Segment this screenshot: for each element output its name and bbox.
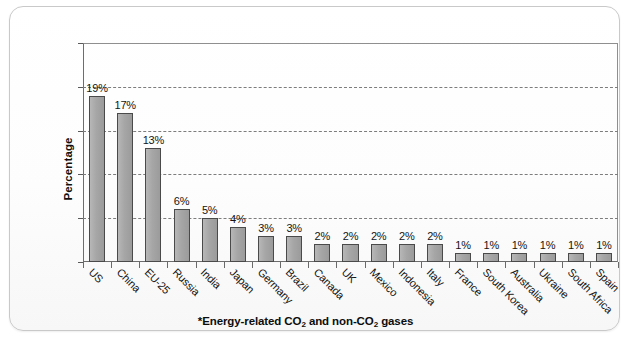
bar-value-label: 2% xyxy=(371,230,387,242)
bar-value-label: 5% xyxy=(202,204,218,216)
bar-value-label: 13% xyxy=(143,134,164,146)
x-axis-ticks xyxy=(83,262,618,268)
x-tick-mark xyxy=(365,262,366,268)
x-tick-mark xyxy=(139,262,140,268)
bar-slot: 5% xyxy=(196,43,224,262)
bar[interactable] xyxy=(202,218,218,262)
bar[interactable] xyxy=(540,253,556,262)
bar-value-label: 3% xyxy=(258,222,274,234)
bar[interactable] xyxy=(511,253,527,262)
x-tick-label: EU-25 xyxy=(143,266,173,296)
x-tick-mark xyxy=(111,262,112,268)
x-tick-label: Russia xyxy=(171,266,203,298)
bar-slot: 1% xyxy=(449,43,477,262)
bar[interactable] xyxy=(286,236,302,262)
bar[interactable] xyxy=(568,253,584,262)
footnote-suffix: gases xyxy=(378,315,413,327)
x-tick-mark xyxy=(421,262,422,268)
x-tick-label: UK xyxy=(340,266,359,285)
bar-slot: 2% xyxy=(336,43,364,262)
x-tick-mark xyxy=(562,262,563,268)
bar[interactable] xyxy=(117,113,133,262)
bar-value-label: 2% xyxy=(315,230,331,242)
x-tick-label: Italy xyxy=(424,266,446,288)
bar[interactable] xyxy=(258,236,274,262)
footnote-sub-2: 2 xyxy=(374,320,378,329)
x-tick-label: Japan xyxy=(227,266,256,295)
bar[interactable] xyxy=(596,253,612,262)
x-tick-mark xyxy=(336,262,337,268)
x-tick-mark xyxy=(477,262,478,268)
x-tick-mark xyxy=(196,262,197,268)
bar-value-label: 4% xyxy=(230,213,246,225)
y-axis-title: Percentage xyxy=(62,137,74,200)
x-tick-mark xyxy=(167,262,168,268)
chart-frame: Percentage 0%5%10%15%20%25% 19%17%13%6%5… xyxy=(9,6,620,331)
x-tick-label: India xyxy=(199,266,224,291)
bar-value-label: 1% xyxy=(568,239,584,251)
bar[interactable] xyxy=(483,253,499,262)
footnote-prefix: *Energy-related CO xyxy=(198,315,302,327)
bar-slot: 3% xyxy=(252,43,280,262)
bar-value-label: 1% xyxy=(484,239,500,251)
bar-value-label: 1% xyxy=(596,239,612,251)
bar-slot: 3% xyxy=(280,43,308,262)
x-tick-label: US xyxy=(86,266,105,285)
x-tick-mark xyxy=(280,262,281,268)
bar-value-label: 2% xyxy=(343,230,359,242)
bar[interactable] xyxy=(427,244,443,262)
bar[interactable] xyxy=(174,209,190,262)
bar[interactable] xyxy=(399,244,415,262)
bar-value-label: 1% xyxy=(540,239,556,251)
x-tick-label: Mexico xyxy=(368,266,401,299)
bar[interactable] xyxy=(314,244,330,262)
bar-value-label: 6% xyxy=(174,195,190,207)
bar-slot: 1% xyxy=(562,43,590,262)
x-tick-mark xyxy=(534,262,535,268)
x-tick-mark xyxy=(590,262,591,268)
x-tick-mark xyxy=(252,262,253,268)
bar-slot: 1% xyxy=(505,43,533,262)
x-tick-mark xyxy=(308,262,309,268)
bar-slot: 1% xyxy=(477,43,505,262)
bar-slot: 19% xyxy=(83,43,111,262)
bar-value-label: 17% xyxy=(115,99,136,111)
bar[interactable] xyxy=(455,253,471,262)
footnote-middle: and non-CO xyxy=(306,315,374,327)
x-tick-mark xyxy=(449,262,450,268)
x-tick-mark xyxy=(83,262,84,268)
bar-slot: 2% xyxy=(393,43,421,262)
x-tick-label: China xyxy=(114,266,142,294)
bar-slot: 2% xyxy=(308,43,336,262)
bar[interactable] xyxy=(230,227,246,262)
bar[interactable] xyxy=(342,244,358,262)
bar-value-label: 2% xyxy=(427,230,443,242)
bar[interactable] xyxy=(89,96,105,262)
x-tick-mark xyxy=(505,262,506,268)
footnote-sub-1: 2 xyxy=(301,320,305,329)
chart-footnote: *Energy-related CO2 and non-CO2 gases xyxy=(10,315,601,327)
bar-value-label: 2% xyxy=(399,230,415,242)
bar[interactable] xyxy=(145,148,161,262)
bar-slot: 1% xyxy=(534,43,562,262)
x-tick-mark xyxy=(618,262,619,268)
bar-slot: 1% xyxy=(590,43,618,262)
x-tick-label: France xyxy=(452,266,484,298)
x-tick-mark xyxy=(393,262,394,268)
bar-value-label: 1% xyxy=(455,239,471,251)
bar-value-label: 19% xyxy=(86,82,107,94)
bar-series: 19%17%13%6%5%4%3%3%2%2%2%2%2%1%1%1%1%1%1… xyxy=(83,43,618,262)
bar-value-label: 1% xyxy=(512,239,528,251)
bar-slot: 2% xyxy=(421,43,449,262)
plot-area-wrapper: 0%5%10%15%20%25% 19%17%13%6%5%4%3%3%2%2%… xyxy=(83,43,618,262)
bar-value-label: 3% xyxy=(286,222,302,234)
bar-slot: 6% xyxy=(167,43,195,262)
bar-slot: 4% xyxy=(224,43,252,262)
x-tick-mark xyxy=(224,262,225,268)
bar-slot: 17% xyxy=(111,43,139,262)
bar[interactable] xyxy=(371,244,387,262)
bar-slot: 13% xyxy=(139,43,167,262)
bar-slot: 2% xyxy=(365,43,393,262)
